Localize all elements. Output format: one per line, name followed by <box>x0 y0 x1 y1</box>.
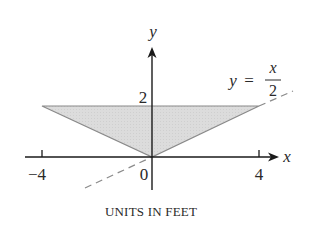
y-axis-label: y <box>147 22 157 41</box>
line-equation-label: y = x 2 <box>227 59 281 99</box>
x-axis-label: x <box>282 147 291 166</box>
shaded-triangle-region <box>42 106 259 157</box>
equation-lhs: y <box>227 71 237 90</box>
units-caption: UNITS IN FEET <box>105 204 197 219</box>
y-tick-label-2: 2 <box>139 88 148 107</box>
equation-equals: = <box>244 71 254 90</box>
x-tick-label-minus-4: −4 <box>28 165 47 184</box>
triangle-region-diagram: y x −4 0 4 2 y = x 2 UNITS IN FEET <box>0 0 309 228</box>
equation-denominator: 2 <box>269 82 277 99</box>
x-tick-label-4: 4 <box>255 165 264 184</box>
x-tick-label-0: 0 <box>140 165 149 184</box>
equation-numerator: x <box>268 59 276 76</box>
